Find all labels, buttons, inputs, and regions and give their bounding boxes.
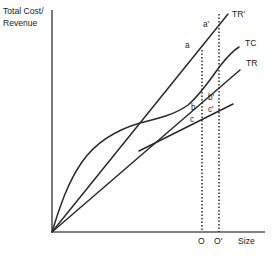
label-TR-prime: TR' (232, 9, 245, 19)
y-axis-label-line1: Total Cost/ (3, 6, 44, 16)
xtick-label-O: O (198, 236, 205, 246)
annotation-b-prime: b' (208, 93, 215, 102)
annotation-c: c (190, 115, 194, 124)
chart-figure: Total Cost/ Revenue TR' TC TR a' a b' b … (0, 0, 276, 256)
curve-TC (52, 47, 239, 232)
y-axis-label-line2: Revenue (3, 18, 38, 28)
annotation-a: a (185, 41, 190, 50)
economics-cost-revenue-chart: Total Cost/ Revenue TR' TC TR a' a b' b … (0, 0, 276, 256)
label-TR: TR (246, 58, 257, 68)
annotation-b: b (191, 103, 196, 112)
xtick-label-O-prime: O' (214, 236, 223, 246)
label-TC: TC (245, 38, 256, 48)
annotation-c-prime: c' (208, 105, 214, 114)
annotation-a-prime: a' (203, 20, 210, 29)
x-axis-label: Size (238, 236, 255, 246)
